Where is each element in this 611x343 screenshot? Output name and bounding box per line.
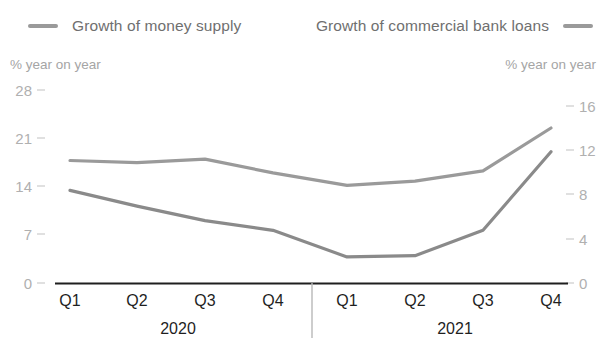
plot-area (0, 0, 611, 343)
x-axis-label: Q2 (126, 292, 147, 310)
x-axis-label: Q1 (59, 292, 80, 310)
x-axis-label: Q4 (262, 292, 283, 310)
x-axis-label: Q1 (336, 292, 357, 310)
x-axis-label: Q2 (404, 292, 425, 310)
x-axis-label: Q3 (194, 292, 215, 310)
x-axis-label: Q3 (472, 292, 493, 310)
x-axis-label: Q4 (540, 292, 561, 310)
chart-container: Growth of money supply Growth of commerc… (0, 0, 611, 343)
line-bank-loans (70, 152, 551, 257)
year-label-2021: 2021 (437, 320, 473, 338)
year-label-2020: 2020 (160, 320, 196, 338)
line-money-supply (70, 128, 551, 185)
